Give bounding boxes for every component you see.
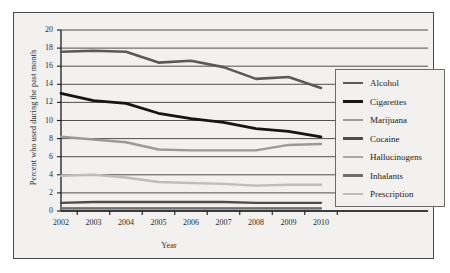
x-tick-label: 2004: [109, 219, 143, 227]
series-line-prescription: [61, 175, 321, 186]
y-tick-label: 12: [31, 98, 53, 106]
x-tick-label: 2009: [272, 219, 306, 227]
legend-label: Marijuana: [370, 115, 407, 125]
y-tick-label: 8: [31, 135, 53, 143]
legend-swatch-icon: [343, 174, 363, 177]
legend-item-inhalants[interactable]: Inhalants: [343, 169, 403, 183]
x-tick-label: 2003: [77, 219, 111, 227]
x-tick-label: 2007: [207, 219, 241, 227]
legend-swatch-icon: [343, 137, 363, 140]
legend-item-alcohol[interactable]: Alcohol: [343, 76, 399, 90]
legend-label: Cigarettes: [370, 97, 407, 107]
x-tick-label: 2006: [174, 219, 208, 227]
legend-item-cigarettes[interactable]: Cigarettes: [343, 95, 407, 109]
y-tick-label: 6: [31, 153, 53, 161]
y-tick-label: 18: [31, 44, 53, 52]
legend-label: Inhalants: [370, 171, 403, 181]
legend-swatch-icon: [343, 193, 363, 196]
legend-label: Alcohol: [370, 78, 399, 88]
y-tick-label: 10: [31, 117, 53, 125]
y-tick-label: 14: [31, 80, 53, 88]
x-tick-label: 2005: [142, 219, 176, 227]
chart-frame: Percent who used during the past month Y…: [13, 12, 434, 259]
y-tick-label: 0: [31, 207, 53, 215]
legend-label: Cocaine: [370, 134, 400, 144]
x-tick-label: 2002: [44, 219, 78, 227]
series-line-cocaine: [61, 202, 321, 203]
legend-item-marijuana[interactable]: Marijuana: [343, 113, 407, 127]
legend-swatch-icon: [343, 119, 363, 122]
legend-item-hallucinogens[interactable]: Hallucinogens: [343, 150, 422, 164]
chart-legend: AlcoholCigarettesMarijuanaCocaineHalluci…: [335, 69, 445, 207]
y-tick-label: 4: [31, 171, 53, 179]
series-line-alcohol: [61, 51, 321, 88]
series-line-cigarettes: [61, 93, 321, 136]
legend-item-cocaine[interactable]: Cocaine: [343, 132, 400, 146]
legend-swatch-icon: [343, 100, 363, 103]
legend-label: Prescription: [370, 189, 414, 199]
legend-item-prescription[interactable]: Prescription: [343, 187, 414, 201]
x-axis-title: Year: [14, 241, 324, 250]
x-tick-label: 2008: [239, 219, 273, 227]
y-tick-label: 16: [31, 62, 53, 70]
chart-figure: Percent who used during the past month Y…: [0, 0, 450, 273]
y-tick-label: 20: [31, 26, 53, 34]
x-tick-label: 2010: [304, 219, 338, 227]
legend-swatch-icon: [343, 156, 363, 159]
legend-label: Hallucinogens: [370, 152, 422, 162]
legend-swatch-icon: [343, 82, 363, 85]
y-tick-label: 2: [31, 189, 53, 197]
